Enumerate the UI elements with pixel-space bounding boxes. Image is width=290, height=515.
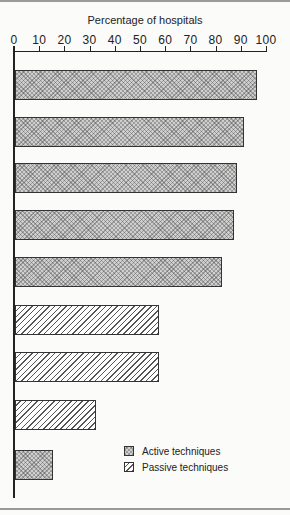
bar xyxy=(15,305,159,335)
bottom-rule xyxy=(0,508,290,510)
legend-item-passive: Passive techniques xyxy=(124,459,228,475)
x-tick-label: 50 xyxy=(133,33,147,47)
x-tick-label: 70 xyxy=(183,33,197,47)
x-tick-label: 0 xyxy=(11,33,18,47)
passive-swatch-icon xyxy=(124,462,134,472)
x-tick-label: 40 xyxy=(108,33,122,47)
bar xyxy=(15,450,53,480)
x-tick-label: 100 xyxy=(256,33,277,47)
active-swatch-icon xyxy=(124,446,134,456)
x-tick-mark xyxy=(266,46,267,52)
chart-title: Percentage of hospitals xyxy=(0,14,290,26)
legend: Active techniques Passive techniques xyxy=(124,443,228,475)
legend-label-passive: Passive techniques xyxy=(142,462,228,473)
bar xyxy=(15,70,257,100)
x-tick-label: 20 xyxy=(57,33,71,47)
legend-label-active: Active techniques xyxy=(142,446,220,457)
top-rule xyxy=(0,0,290,2)
bar xyxy=(15,163,237,193)
x-tick-label: 80 xyxy=(209,33,223,47)
bar xyxy=(15,257,222,287)
x-tick-label: 90 xyxy=(234,33,248,47)
bar xyxy=(15,117,244,147)
legend-item-active: Active techniques xyxy=(124,443,228,459)
x-tick-label: 60 xyxy=(158,33,172,47)
bar xyxy=(15,352,159,382)
bar xyxy=(15,400,96,430)
bar xyxy=(15,210,234,240)
x-tick-label: 30 xyxy=(83,33,97,47)
x-tick-label: 10 xyxy=(32,33,46,47)
x-axis xyxy=(13,51,266,52)
